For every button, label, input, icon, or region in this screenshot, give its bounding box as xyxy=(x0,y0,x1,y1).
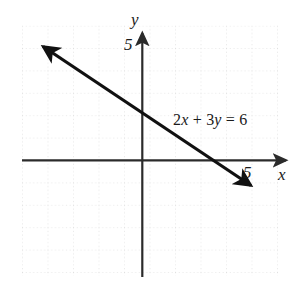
x-axis-label: x xyxy=(278,166,286,183)
equation-annotation: 2x + 3y = 6 xyxy=(173,112,247,128)
equation-constant: 6 xyxy=(239,111,247,128)
equation-var-x: x xyxy=(181,111,188,128)
coordinate-plane-figure: y x 5 5 2x + 3y = 6 xyxy=(0,0,300,286)
equation-coef-x: 2 xyxy=(173,111,181,128)
equation-var-y: y xyxy=(214,111,221,128)
equation-equals: = xyxy=(222,111,240,128)
equation-plus: + xyxy=(189,111,207,128)
x-axis-tick-label-5: 5 xyxy=(243,164,252,181)
grid-lines xyxy=(22,26,278,276)
graph-canvas xyxy=(0,0,300,286)
y-axis-tick-label-5: 5 xyxy=(124,36,133,53)
y-axis-label: y xyxy=(131,11,139,28)
